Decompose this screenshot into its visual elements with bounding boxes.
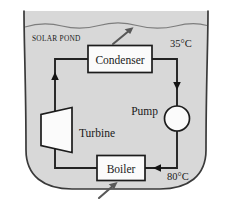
- turbine-shape: [41, 108, 72, 153]
- temperature-top-label: 35°C: [170, 38, 192, 49]
- diagram-canvas: SOLAR POND Condenser: [0, 0, 232, 211]
- condenser-label: Condenser: [95, 54, 144, 66]
- solar-pond-cycle-figure: SOLAR POND Condenser: [0, 0, 232, 211]
- pump-label: Pump: [131, 105, 158, 118]
- boiler-label: Boiler: [107, 163, 136, 175]
- temperature-bottom-label: 80°C: [167, 171, 189, 182]
- turbine-label: Turbine: [79, 127, 115, 139]
- pond-caption: SOLAR POND: [32, 34, 81, 43]
- boiler-component: Boiler: [97, 156, 145, 199]
- pump-circle: [165, 106, 190, 131]
